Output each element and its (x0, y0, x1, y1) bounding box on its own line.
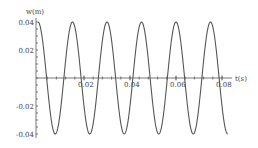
x-axis-label: t(s) (235, 75, 247, 83)
x-tick-label: 0.08 (216, 81, 232, 89)
y-tick-labels: 0.040.02-0.02-0.04 (16, 19, 34, 139)
x-tick-label: 0.02 (78, 81, 94, 89)
y-tick-label: -0.04 (16, 131, 34, 139)
axes (36, 18, 232, 138)
y-tick-label: 0.02 (18, 47, 34, 55)
x-tick-label: 0.06 (170, 81, 186, 89)
y-tick-label: -0.02 (16, 103, 34, 111)
displacement-chart: w(m) t(s) 0.020.040.060.08 0.040.02-0.02… (0, 0, 258, 148)
y-tick-label: 0.04 (18, 19, 34, 27)
y-axis-label: w(m) (26, 8, 44, 16)
x-tick-labels: 0.020.040.060.08 (78, 81, 232, 89)
x-tick-label: 0.04 (124, 81, 140, 89)
